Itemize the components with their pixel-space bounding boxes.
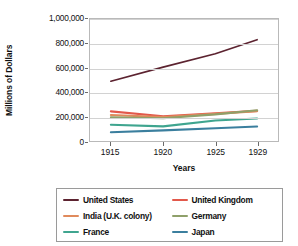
y-tick-label: 1,000,000 <box>49 13 84 23</box>
x-tick-label: 1920 <box>154 147 173 157</box>
y-tick-mark <box>85 18 88 19</box>
y-tick-label: 400,000 <box>55 87 84 97</box>
legend-item-label: France <box>83 227 109 237</box>
x-tick-mark <box>258 142 259 146</box>
legend-item-label: United States <box>83 195 133 205</box>
legend-item[interactable]: United States <box>63 195 170 205</box>
x-tick-mark <box>163 142 164 146</box>
x-axis-title: Years <box>89 163 279 173</box>
series-line <box>111 118 257 126</box>
y-tick-label: 0 <box>80 137 84 147</box>
y-tick-mark <box>85 117 88 118</box>
y-tick-mark <box>85 43 88 44</box>
gridline <box>90 69 278 70</box>
series-line <box>111 40 257 81</box>
legend-color-swatch-icon <box>63 215 79 217</box>
y-axis-tick-labels: 0200,000400,000600,000800,0001,000,000 <box>16 14 88 146</box>
x-tick-label: 1925 <box>206 147 225 157</box>
y-tick-label: 800,000 <box>55 38 84 48</box>
legend-color-swatch-icon <box>172 215 188 217</box>
legend-item-label: India (U.K. colony) <box>83 211 152 221</box>
legend-color-swatch-icon <box>172 231 188 233</box>
legend-item[interactable]: Germany <box>172 211 279 221</box>
legend-item-label: United Kingdom <box>192 195 253 205</box>
chart-plot-block: Millions of Dollars 0200,000400,000600,0… <box>0 0 298 182</box>
legend-color-swatch-icon <box>63 199 79 201</box>
x-tick-label: 1929 <box>249 147 268 157</box>
x-axis-tick-labels: 1915192019251929 <box>89 147 279 160</box>
gridline <box>90 93 278 94</box>
legend-color-swatch-icon <box>63 231 79 233</box>
gridline <box>90 118 278 119</box>
line-chart-figure: Millions of Dollars 0200,000400,000600,0… <box>0 0 298 246</box>
gridline <box>90 44 278 45</box>
legend-color-swatch-icon <box>172 199 188 201</box>
y-tick-mark <box>85 68 88 69</box>
legend-item[interactable]: United Kingdom <box>172 195 279 205</box>
legend-item[interactable]: India (U.K. colony) <box>63 211 170 221</box>
chart-legend: United StatesUnited KingdomIndia (U.K. c… <box>56 188 283 242</box>
y-tick-mark <box>85 92 88 93</box>
x-tick-mark <box>110 142 111 146</box>
legend-item-label: Germany <box>192 211 227 221</box>
series-lines <box>90 19 278 141</box>
legend-item[interactable]: France <box>63 227 170 237</box>
y-tick-label: 600,000 <box>55 63 84 73</box>
x-tick-mark <box>216 142 217 146</box>
x-tick-label: 1915 <box>101 147 120 157</box>
plot-area <box>89 18 279 142</box>
y-axis-title: Millions of Dollars <box>2 18 16 142</box>
gridline <box>90 19 278 20</box>
y-tick-label: 200,000 <box>55 112 84 122</box>
legend-item-label: Japan <box>192 227 215 237</box>
legend-item[interactable]: Japan <box>172 227 279 237</box>
series-line <box>111 126 257 132</box>
y-tick-mark <box>85 142 88 143</box>
